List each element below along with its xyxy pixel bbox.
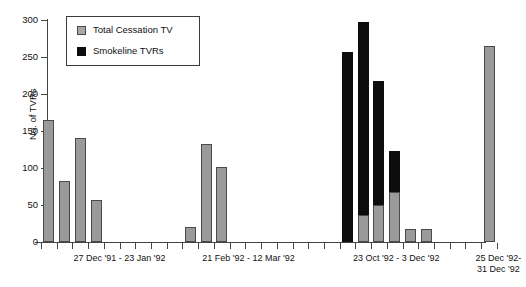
y-axis-tick <box>41 94 48 95</box>
x-axis-tick <box>120 243 121 249</box>
bar <box>201 144 212 242</box>
bar-segment-total-cessation-tv <box>43 120 54 242</box>
x-axis-tick <box>245 243 246 249</box>
bar <box>91 200 102 242</box>
y-axis-tick <box>41 57 48 58</box>
y-axis-tick-label: 100 <box>22 163 38 173</box>
x-axis-group-label: 25 Dec '92- 31 Dec '92 <box>418 253 526 274</box>
bar <box>484 46 495 242</box>
x-axis-tick <box>88 243 89 249</box>
x-axis-tick <box>497 243 498 249</box>
legend-label-smokeline-tvrs: Smokeline TVRs <box>93 46 164 56</box>
x-axis-tick <box>434 243 435 249</box>
y-axis-tick <box>41 242 48 243</box>
bar <box>216 167 227 242</box>
bar-segment-total-cessation-tv <box>59 181 70 242</box>
y-axis-tick-label: 0 <box>33 237 38 247</box>
bar-segment-total-cessation-tv <box>91 200 102 242</box>
x-axis-tick <box>403 243 404 249</box>
bar-segment-total-cessation-tv <box>373 205 384 242</box>
bar-segment-total-cessation-tv <box>216 167 227 242</box>
bar-segment-total-cessation-tv <box>421 229 432 242</box>
x-axis-tick <box>450 243 451 249</box>
x-axis-tick <box>465 243 466 249</box>
x-axis-tick <box>230 243 231 249</box>
x-axis-tick <box>340 243 341 249</box>
y-axis-tick-label: 50 <box>27 200 38 210</box>
x-axis-tick <box>72 243 73 249</box>
bar <box>185 227 196 242</box>
y-axis-tick-label: 250 <box>22 52 38 62</box>
bar <box>358 22 369 242</box>
bar-segment-total-cessation-tv <box>405 229 416 242</box>
x-axis-tick <box>198 243 199 249</box>
x-axis-tick <box>167 243 168 249</box>
legend-item-smokeline-tvrs: Smokeline TVRs <box>77 46 164 56</box>
bar-segment-total-cessation-tv <box>389 192 400 242</box>
bar-segment-total-cessation-tv <box>358 215 369 242</box>
x-axis-group-label: 21 Feb '92 - 12 Mar '92 <box>169 253 329 264</box>
bar <box>342 52 353 242</box>
x-axis-tick <box>214 243 215 249</box>
legend-label-total-cessation-tv: Total Cessation TV <box>93 25 173 35</box>
x-axis-tick <box>387 243 388 249</box>
bar <box>405 229 416 242</box>
bar-segment-smokeline-tvrs <box>342 52 353 242</box>
x-axis-tick <box>371 243 372 249</box>
bar-segment-total-cessation-tv <box>201 144 212 242</box>
y-axis-tick-label: 200 <box>22 89 38 99</box>
x-axis-tick <box>135 243 136 249</box>
bar-segment-total-cessation-tv <box>75 138 86 242</box>
bar <box>59 181 70 242</box>
x-axis-tick <box>324 243 325 249</box>
x-axis-tick <box>355 243 356 249</box>
x-axis-tick <box>182 243 183 249</box>
bar-segment-smokeline-tvrs <box>389 151 400 192</box>
bar <box>421 229 432 242</box>
x-axis-tick <box>151 243 152 249</box>
y-axis-tick-label: 150 <box>22 126 38 136</box>
bar-segment-total-cessation-tv <box>185 227 196 242</box>
legend-swatch-gray-icon <box>77 26 86 35</box>
bar <box>389 151 400 242</box>
bar <box>43 120 54 242</box>
x-axis-tick <box>261 243 262 249</box>
bar <box>373 81 384 242</box>
x-axis-tick <box>418 243 419 249</box>
bar-segment-total-cessation-tv <box>484 46 495 242</box>
x-axis-tick <box>57 243 58 249</box>
y-axis-tick <box>41 20 48 21</box>
legend-item-total-cessation-tv: Total Cessation TV <box>77 25 173 35</box>
bar <box>75 138 86 242</box>
legend: Total Cessation TV Smokeline TVRs <box>66 16 200 66</box>
x-axis-tick <box>481 243 482 249</box>
bar-segment-smokeline-tvrs <box>373 81 384 205</box>
x-axis-tick <box>308 243 309 249</box>
y-axis-tick-label: 300 <box>22 15 38 25</box>
x-axis-tick <box>104 243 105 249</box>
x-axis-tick <box>293 243 294 249</box>
x-axis-tick <box>41 243 42 249</box>
bar-segment-smokeline-tvrs <box>358 22 369 214</box>
legend-swatch-black-icon <box>77 47 86 56</box>
x-axis-tick <box>277 243 278 249</box>
